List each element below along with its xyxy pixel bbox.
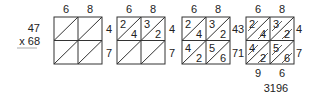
tens-digit: 2 [120, 18, 126, 30]
ones-digit: 4 [131, 28, 137, 40]
svg-text:4: 4 [249, 42, 255, 54]
column-label: 8 [279, 3, 285, 15]
row-label: 7 [296, 47, 302, 59]
final-product: 3196 [264, 82, 288, 94]
column-label: 8 [150, 3, 156, 15]
lattice-multiplication-diagram: 47 x 68 6 8 4 7 6 8 4 7 2 4 3 2 [0, 0, 314, 98]
column-label: 8 [215, 3, 221, 15]
svg-text:6: 6 [220, 52, 226, 64]
svg-text:3: 3 [273, 18, 279, 30]
lattice-grid-2: 6 8 4 7 2 4 3 2 [117, 3, 175, 64]
svg-text:2: 2 [220, 28, 226, 40]
multiplier: x 68 [19, 35, 40, 47]
row-label: 4 [106, 23, 112, 35]
bottom-sum-digit: 9 [255, 67, 261, 79]
left-sum-digit: 3 [238, 23, 244, 35]
bottom-sum-digit: 6 [279, 67, 285, 79]
row-label: 4 [169, 23, 175, 35]
lattice-grid-1: 6 8 4 7 [54, 3, 112, 64]
svg-text:5: 5 [209, 42, 215, 54]
left-sum-digit: 1 [238, 47, 244, 59]
row-label: 7 [106, 47, 112, 59]
row-label: 7 [169, 47, 175, 59]
svg-text:6: 6 [284, 52, 290, 64]
column-label: 6 [63, 3, 69, 15]
lattice-grid-4: 6 8 4 7 3 1 9 6 2 4 3 2 4 2 5 6 [238, 3, 302, 79]
column-label: 6 [191, 3, 197, 15]
lattice-grid-3: 6 8 4 7 2 4 3 2 4 2 5 6 [182, 3, 238, 64]
svg-text:4: 4 [260, 28, 266, 40]
svg-text:2: 2 [196, 52, 202, 64]
tens-digit: 3 [144, 18, 150, 30]
svg-text:4: 4 [196, 28, 202, 40]
column-label: 8 [87, 3, 93, 15]
svg-text:2: 2 [260, 52, 266, 64]
svg-text:2: 2 [249, 18, 255, 30]
column-label: 6 [126, 3, 132, 15]
svg-text:5: 5 [273, 42, 279, 54]
svg-text:4: 4 [185, 42, 191, 54]
column-label: 6 [255, 3, 261, 15]
ones-digit: 2 [155, 28, 161, 40]
svg-text:3: 3 [209, 18, 215, 30]
svg-text:2: 2 [185, 18, 191, 30]
multiplicand: 47 [28, 22, 40, 34]
row-label: 4 [296, 23, 302, 35]
svg-text:2: 2 [284, 28, 290, 40]
